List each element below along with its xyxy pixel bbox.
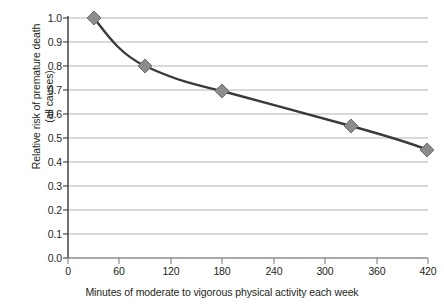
- data-series-line: [94, 18, 428, 150]
- data-point-marker: [420, 143, 434, 157]
- data-point-marker: [215, 84, 229, 98]
- plot-area: [0, 0, 444, 307]
- y-axis: [63, 16, 68, 258]
- data-point-marker: [344, 119, 358, 133]
- chart-figure: Relative risk of premature death (all ca…: [0, 0, 444, 307]
- data-point-marker: [138, 59, 152, 73]
- x-axis: [68, 258, 428, 264]
